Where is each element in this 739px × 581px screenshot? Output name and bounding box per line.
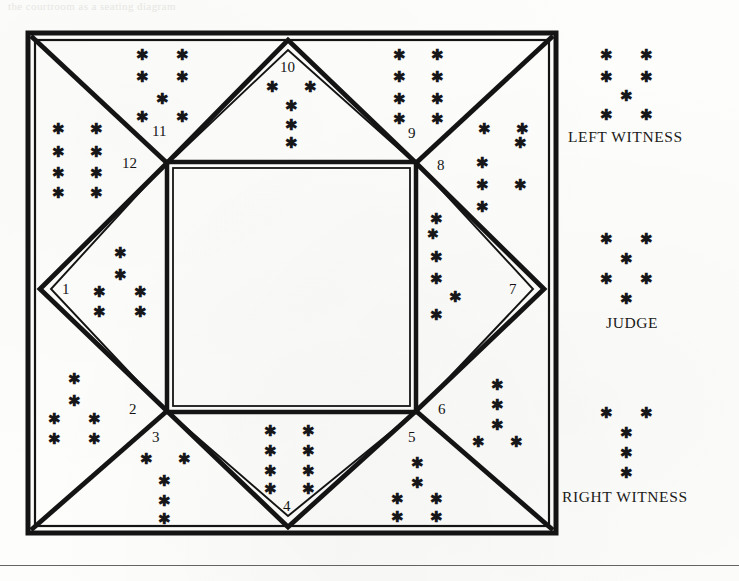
- legend-asterisk: ✱: [640, 70, 653, 85]
- vertex-number-1: 1: [62, 281, 70, 297]
- asterisk: ✱: [302, 482, 315, 497]
- asterisk: ✱: [285, 136, 298, 151]
- vertex-number-6: 6: [438, 401, 446, 417]
- asterisk: ✱: [393, 70, 406, 85]
- edge-bottom-point-inner: [175, 418, 408, 516]
- asterisk: ✱: [158, 512, 171, 527]
- asterisk: ✱: [264, 444, 277, 459]
- legend-right-witness: ✱ ✱ ✱ ✱ ✱ RIGHT WITNESS: [568, 396, 728, 482]
- asterisk: ✱: [264, 424, 277, 439]
- asterisk: ✱: [302, 444, 315, 459]
- asterisk: ✱: [114, 268, 127, 283]
- vertex-number-4: 4: [283, 498, 291, 514]
- asterisk: ✱: [264, 482, 277, 497]
- legend-judge: ✱ ✱ ✱ ✱ ✱ ✱ JUDGE: [568, 222, 728, 308]
- vertex-number-10: 10: [280, 59, 295, 75]
- asterisk: ✱: [52, 166, 65, 181]
- asterisk: ✱: [140, 452, 153, 467]
- legend-asterisk: ✱: [620, 466, 633, 481]
- asterisk: ✱: [430, 492, 443, 507]
- vertex-number-2: 2: [129, 401, 137, 417]
- asterisk: ✱: [431, 92, 444, 107]
- legend-label-judge: JUDGE: [606, 314, 658, 332]
- asterisk: ✱: [90, 186, 103, 201]
- asterisk: ✱: [285, 99, 298, 114]
- asterisk: ✱: [411, 456, 424, 471]
- legend-asterisk: ✱: [620, 446, 633, 461]
- asterisk: ✱: [302, 424, 315, 439]
- asterisk: ✱: [156, 92, 169, 107]
- legend-asterisk: ✱: [640, 272, 653, 287]
- asterisk: ✱: [476, 178, 489, 193]
- asterisk: ✱: [430, 308, 443, 323]
- asterisk: ✱: [393, 48, 406, 63]
- asterisk: ✱: [48, 432, 61, 447]
- asterisk: ✱: [430, 250, 443, 265]
- asterisk: ✱: [178, 452, 191, 467]
- asterisk: ✱: [427, 228, 439, 242]
- asterisk: ✱: [478, 122, 491, 137]
- asterisk: ✱: [52, 186, 65, 201]
- asterisk: ✱: [285, 118, 298, 133]
- legend-asterisk: ✱: [620, 292, 633, 307]
- asterisk: ✱: [431, 70, 444, 85]
- asterisk: ✱: [430, 212, 443, 227]
- legend-asterisk: ✱: [600, 108, 613, 123]
- inner-square-outer: [167, 162, 416, 412]
- asterisk: ✱: [491, 418, 504, 433]
- legend-asterisk: ✱: [600, 272, 613, 287]
- asterisk: ✱: [476, 156, 489, 171]
- legend-asterisk: ✱: [600, 70, 613, 85]
- asterisk: ✱: [68, 372, 81, 387]
- legend-asterisk: ✱: [640, 48, 653, 63]
- asterisk: ✱: [90, 145, 103, 160]
- asterisk: ✱: [391, 510, 404, 525]
- asterisk: ✱: [114, 246, 127, 261]
- asterisk: ✱: [430, 272, 443, 287]
- legend-asterisk: ✱: [620, 426, 633, 441]
- asterisk: ✱: [90, 122, 103, 137]
- asterisk: ✱: [431, 48, 444, 63]
- asterisk: ✱: [393, 92, 406, 107]
- vertex-number-8: 8: [437, 157, 445, 173]
- asterisk: ✱: [491, 398, 504, 413]
- legend-right-witness-glyphs: ✱ ✱ ✱ ✱ ✱: [568, 396, 728, 482]
- asterisk: ✱: [93, 285, 106, 300]
- asterisk: ✱: [472, 435, 485, 450]
- asterisk: ✱: [90, 166, 103, 181]
- vertex-number-7: 7: [509, 281, 517, 297]
- vertex-number-3: 3: [152, 429, 160, 445]
- asterisk: ✱: [158, 494, 171, 509]
- asterisk: ✱: [516, 122, 529, 137]
- asterisk: ✱: [176, 48, 189, 63]
- figure-page: the courtroom as a seating diagram: [0, 0, 739, 581]
- legend-asterisk: ✱: [620, 89, 633, 104]
- asterisk: ✱: [136, 70, 149, 85]
- page-bottom-rule: [0, 565, 739, 566]
- asterisk: ✱: [134, 285, 147, 300]
- vertex-number-12: 12: [122, 155, 137, 171]
- legend-judge-glyphs: ✱ ✱ ✱ ✱ ✱ ✱: [568, 222, 728, 308]
- asterisk: ✱: [431, 112, 444, 127]
- asterisk: ✱: [449, 290, 462, 305]
- asterisk: ✱: [134, 305, 147, 320]
- legend-asterisk: ✱: [640, 108, 653, 123]
- legend-left-witness: ✱ ✱ ✱ ✱ ✱ ✱ ✱ LEFT WITNESS: [568, 36, 728, 122]
- vertex-number-11: 11: [152, 123, 166, 139]
- legend-asterisk: ✱: [600, 232, 613, 247]
- asterisk: ✱: [391, 492, 404, 507]
- asterisk: ✱: [176, 110, 189, 125]
- asterisk: ✱: [264, 464, 277, 479]
- asterisk: ✱: [411, 476, 424, 491]
- asterisk: ✱: [393, 112, 406, 127]
- asterisk: ✱: [514, 178, 527, 193]
- vertex-number-9: 9: [408, 125, 416, 141]
- asterisk: ✱: [93, 305, 106, 320]
- asterisk: ✱: [68, 394, 81, 409]
- asterisk: ✱: [48, 412, 61, 427]
- asterisk: ✱: [136, 110, 149, 125]
- asterisk: ✱: [266, 80, 279, 95]
- asterisk: ✱: [302, 464, 315, 479]
- asterisk: ✱: [304, 80, 317, 95]
- asterisk: ✱: [52, 145, 65, 160]
